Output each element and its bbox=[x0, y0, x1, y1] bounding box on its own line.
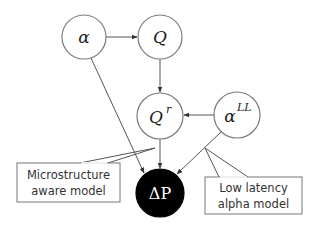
node-circle bbox=[214, 92, 260, 138]
node-delta-p: ΔP bbox=[136, 169, 184, 217]
node-label: α bbox=[78, 27, 90, 47]
node-qr: Q r bbox=[137, 93, 183, 139]
node-label: ΔP bbox=[149, 184, 172, 203]
callout-low-latency: Low latency alpha model bbox=[205, 148, 302, 214]
node-label: Q bbox=[153, 27, 167, 47]
node-q: Q bbox=[138, 15, 182, 59]
node-alpha: α bbox=[62, 15, 106, 59]
callout-pointer-line bbox=[80, 148, 155, 163]
node-label: Q bbox=[149, 107, 163, 127]
node-superscript: LL bbox=[236, 101, 252, 114]
callout-text-line-2: alpha model bbox=[218, 197, 289, 211]
graphical-model-diagram: Microstructure aware model Low latency a… bbox=[0, 0, 316, 230]
callout-text-line-1: Low latency bbox=[219, 181, 288, 195]
node-label: α bbox=[224, 106, 236, 126]
callout-microstructure: Microstructure aware model bbox=[17, 148, 155, 202]
node-alpha-ll: α LL bbox=[214, 92, 260, 138]
callout-text-line-1: Microstructure bbox=[27, 168, 110, 182]
node-superscript: r bbox=[166, 103, 172, 116]
callout-text-line-2: aware model bbox=[31, 184, 106, 198]
